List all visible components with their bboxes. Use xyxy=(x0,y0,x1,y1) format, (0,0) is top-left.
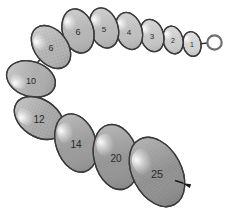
ellipse-label-10-7: 10 xyxy=(26,76,36,86)
ellipse-label-25-11: 25 xyxy=(151,168,163,180)
ellipse-label-5-4: 5 xyxy=(102,25,107,34)
ellipse-label-20-10: 20 xyxy=(110,153,122,164)
ellipse-label-2-1: 2 xyxy=(171,37,175,44)
ellipse-label-1-0: 1 xyxy=(190,41,194,48)
ellipse-label-14-9: 14 xyxy=(70,139,82,150)
figure-root: 12345661012142025 xyxy=(0,0,228,218)
open-ring-icon xyxy=(207,35,221,49)
ellipse-label-3-2: 3 xyxy=(150,32,155,41)
ellipse-chain-diagram: 12345661012142025 xyxy=(0,0,228,218)
ellipse-label-12-8: 12 xyxy=(33,114,45,125)
ellipse-label-6-6: 6 xyxy=(48,43,53,53)
ellipse-label-4-3: 4 xyxy=(127,28,132,37)
ellipse-label-6-5: 6 xyxy=(75,27,80,37)
